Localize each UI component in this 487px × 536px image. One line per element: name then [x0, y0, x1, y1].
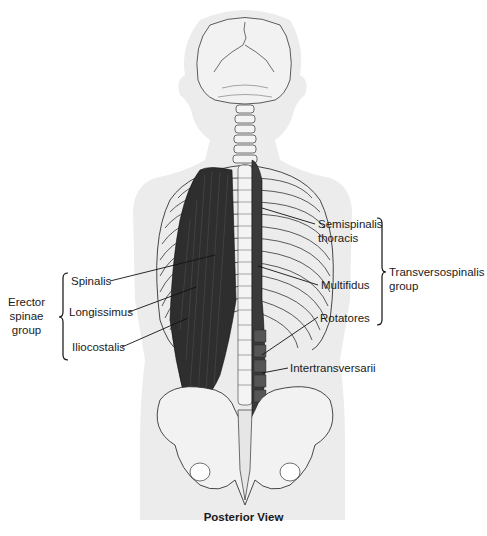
label-line: thoracis	[318, 231, 383, 245]
group-label-line: Erector	[8, 295, 45, 309]
obturator-foramen-left	[190, 463, 210, 481]
label-iliocostalis: Iliocostalis	[72, 340, 125, 354]
group-label-line: Transversospinalis	[389, 265, 484, 279]
label-line: Semispinalis	[318, 217, 383, 231]
label-intertransversarii: Intertransversarii	[290, 361, 376, 375]
rotatores-intertransversarii	[254, 330, 266, 402]
obturator-foramen-right	[280, 463, 300, 481]
erector-spinae-group-label: Erector spinae group	[8, 295, 45, 337]
transversospinalis-group-label: Transversospinalis group	[389, 265, 484, 293]
group-label-line: group	[8, 323, 45, 337]
group-label-line: group	[389, 279, 484, 293]
posterior-back-muscles-figure: Erector spinae group Spinalis Longissimu…	[0, 0, 487, 536]
erector-spinae-bracket	[59, 273, 68, 360]
label-longissimus: Longissimus	[69, 305, 133, 319]
label-semispinalis-thoracis: Semispinalis thoracis	[318, 217, 383, 245]
spine	[238, 165, 252, 405]
label-multifidus: Multifidus	[321, 278, 370, 292]
view-caption: Posterior View	[0, 511, 487, 523]
label-spinalis: Spinalis	[71, 274, 111, 288]
group-label-line: spinae	[8, 309, 45, 323]
label-rotatores: Rotatores	[320, 311, 370, 325]
